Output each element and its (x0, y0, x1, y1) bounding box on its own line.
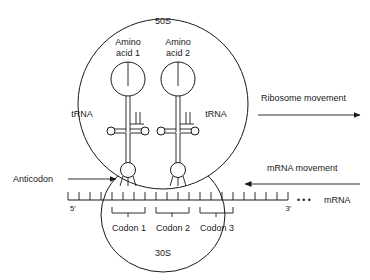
trna-1-right-loop (141, 127, 149, 135)
ribosome-movement-label: Ribosome movement (261, 93, 347, 103)
trna-2-right-loop (191, 127, 199, 135)
trna-1-anticodon-loop (121, 163, 136, 178)
mrna-five-prime-label: 5′ (70, 204, 76, 213)
subunit-30s-label: 30S (155, 248, 171, 258)
trna-1-left-loop (107, 127, 115, 135)
subunit-50s-body (78, 19, 248, 189)
mrna-label: mRNA (324, 195, 351, 205)
amino-acid-2-label-line1: Amino (165, 37, 191, 47)
codon-3-label: Codon 3 (200, 223, 234, 233)
trna-2-left-loop (157, 127, 165, 135)
codon-2-label: Codon 2 (156, 223, 190, 233)
ribosome-translation-diagram: 50S 30S Amino acid 1 Amino acid 2 (0, 0, 370, 280)
subunit-50s-label: 50S (155, 16, 171, 26)
mrna-three-prime-label: 3′ (285, 204, 291, 213)
amino-acid-1-label-line1: Amino (115, 37, 141, 47)
diagram-canvas: 50S 30S Amino acid 1 Amino acid 2 (0, 0, 370, 280)
trna-2-anticodon-loop (171, 163, 186, 178)
mrna-tick-marks (68, 192, 288, 200)
trna-label-right: tRNA (205, 109, 227, 119)
trna-label-left: tRNA (71, 109, 93, 119)
amino-acid-2-label-line2: acid 2 (166, 48, 190, 58)
amino-acid-1-label-line2: acid 1 (116, 48, 140, 58)
mrna-continuation-dots: • • • (297, 195, 311, 205)
anticodon-label: Anticodon (13, 174, 53, 184)
codon-1-label: Codon 1 (112, 223, 146, 233)
mrna-movement-label: mRNA movement (267, 163, 338, 173)
